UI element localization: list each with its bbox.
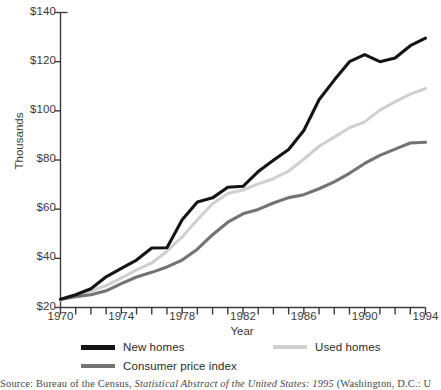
y-tick-label: $40 xyxy=(37,250,57,262)
legend-label-consumer-price-index: Consumer price index xyxy=(123,360,237,372)
x-tick-label: 1982 xyxy=(230,310,256,322)
y-axis-tick-labels: $140$120$100$80$60$40$20 xyxy=(20,0,56,320)
source-title: Statistical Abstract of the United State… xyxy=(132,378,337,389)
x-tick-label: 1970 xyxy=(48,310,74,322)
x-tick-label: 1994 xyxy=(413,310,439,322)
y-tick-label: $100 xyxy=(30,103,56,115)
y-tick-label: $80 xyxy=(37,152,57,164)
legend-entry-new-homes: New homes xyxy=(81,341,185,353)
legend-swatch-consumer-price-index xyxy=(81,364,115,368)
y-tick-label: $60 xyxy=(37,201,57,213)
source-caption: Source: Bureau of the Census, Statistica… xyxy=(0,378,441,389)
y-tick-label: $120 xyxy=(30,54,56,66)
legend-entry-consumer-price-index: Consumer price index xyxy=(81,360,237,372)
x-tick-label: 1986 xyxy=(291,310,317,322)
home-prices-line-chart: $140$120$100$80$60$40$20 197019741978198… xyxy=(0,0,441,390)
y-tick-label: $140 xyxy=(30,5,56,17)
legend-swatch-new-homes xyxy=(81,345,115,350)
plot-area xyxy=(0,0,441,320)
y-axis-title: Thousands xyxy=(13,96,25,186)
x-axis-title: Year xyxy=(0,325,441,337)
legend-label-used-homes: Used homes xyxy=(315,341,381,353)
source-suffix: (Washington, D.C.: U xyxy=(337,378,432,389)
series-group xyxy=(61,38,426,300)
x-tick-label: 1978 xyxy=(169,310,195,322)
legend-entry-used-homes: Used homes xyxy=(273,341,381,353)
x-tick-label: 1974 xyxy=(108,310,134,322)
x-tick-label: 1990 xyxy=(352,310,378,322)
chart-legend: New homes Used homes Consumer price inde… xyxy=(0,341,441,377)
legend-swatch-used-homes xyxy=(273,345,307,349)
source-prefix: Source: Bureau of the Census, xyxy=(0,378,132,389)
legend-label-new-homes: New homes xyxy=(123,341,185,353)
